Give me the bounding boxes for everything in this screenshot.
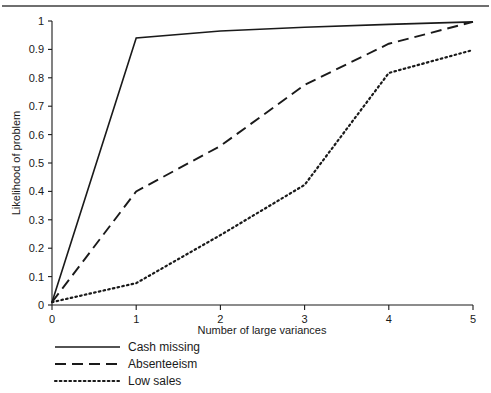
y-tick-label: 0 [38, 299, 44, 311]
y-tick-label: 0.4 [29, 185, 44, 197]
y-tick-label: 0.7 [29, 100, 44, 112]
x-axis-title: Number of large variances [197, 324, 327, 336]
series-line-cash-missing [52, 22, 473, 302]
y-tick-label: 0.9 [29, 43, 44, 55]
y-tick-label: 0.8 [29, 72, 44, 84]
line-chart: 00.10.20.30.40.50.60.70.80.91 012345 Lik… [0, 0, 491, 393]
axes [52, 21, 473, 305]
legend-label: Cash missing [128, 340, 200, 354]
y-tick-label: 0.6 [29, 129, 44, 141]
x-tick-label: 5 [470, 313, 476, 325]
legend-label: Absenteeism [128, 357, 197, 371]
y-axis-title: Likelihood of problem [10, 111, 22, 216]
y-axis-ticks: 00.10.20.30.40.50.60.70.80.91 [29, 15, 52, 311]
y-tick-label: 0.3 [29, 214, 44, 226]
data-series-group [52, 22, 473, 302]
x-tick-label: 1 [133, 313, 139, 325]
chart-legend: Cash missingAbsenteeismLow sales [55, 340, 200, 388]
y-tick-label: 0.2 [29, 242, 44, 254]
y-tick-label: 1 [38, 15, 44, 27]
legend-label: Low sales [128, 374, 181, 388]
x-axis-ticks: 012345 [49, 305, 476, 325]
y-tick-label: 0.1 [29, 271, 44, 283]
series-line-low-sales [52, 50, 473, 302]
x-tick-label: 4 [386, 313, 392, 325]
y-tick-label: 0.5 [29, 157, 44, 169]
series-line-absenteeism [52, 22, 473, 302]
x-tick-label: 0 [49, 313, 55, 325]
figure-container: 00.10.20.30.40.50.60.70.80.91 012345 Lik… [0, 0, 491, 393]
